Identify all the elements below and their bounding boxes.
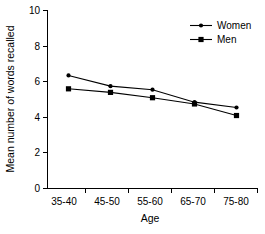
x-tick-label-55-60: 55-60 [137,196,163,207]
x-tick-label-45-50: 45-50 [94,196,120,207]
x-axis-title: Age [141,212,160,224]
legend-label-men: Men [217,34,236,45]
data-point-women-45-50 [108,84,112,88]
data-point-men-55-60 [150,95,155,100]
data-point-men-65-70 [192,101,197,106]
y-tick-label-10: 10 [29,5,41,16]
data-point-women-75-80 [234,105,238,109]
data-point-men-35-40 [66,86,71,91]
x-tick-label-35-40: 35-40 [51,196,77,207]
y-tick-label-6: 6 [34,76,40,87]
x-tick-label-75-80: 75-80 [223,196,249,207]
data-point-women-35-40 [66,73,70,77]
legend-men-square-marker [198,37,203,42]
x-tick-label-65-70: 65-70 [180,196,206,207]
y-tick-label-2: 2 [34,147,40,158]
data-point-men-45-50 [108,90,113,95]
y-tick-label-4: 4 [34,112,40,123]
y-tick-label-0: 0 [34,183,40,194]
legend-women-circle-marker [199,23,203,27]
line-chart: 0 2 4 6 8 10 Mean number of words recall… [0,0,265,234]
chart-canvas: 0 2 4 6 8 10 Mean number of words recall… [0,0,265,234]
y-tick-label-8: 8 [34,41,40,52]
legend-label-women: Women [217,20,251,31]
data-point-men-75-80 [234,113,239,118]
data-point-women-55-60 [150,88,154,92]
y-axis-title: Mean number of words recalled [4,25,16,172]
